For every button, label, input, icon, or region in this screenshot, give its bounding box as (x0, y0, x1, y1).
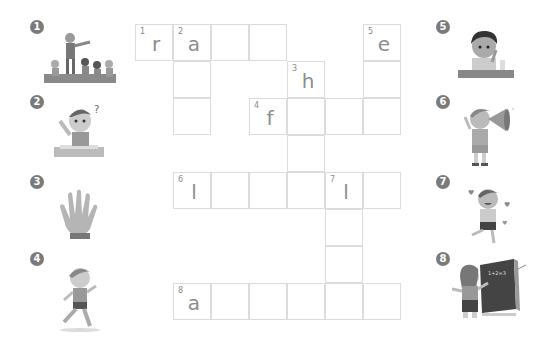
crossword-cell[interactable] (325, 209, 363, 246)
crossword-cell[interactable] (249, 283, 287, 320)
svg-text:1+2=3: 1+2=3 (488, 270, 506, 276)
svg-text:': ' (512, 107, 514, 115)
clue-number-badge: 8 (436, 252, 450, 266)
crossword-cell[interactable] (363, 283, 401, 320)
girl-at-blackboard-icon: 1+2=3 (450, 255, 530, 325)
clue-1: 1 (28, 18, 118, 93)
crossword-cell[interactable] (325, 98, 363, 135)
clue-5: 5 (434, 18, 524, 93)
crossword-cell[interactable]: 8a (173, 283, 211, 320)
crossword-cell[interactable] (363, 61, 401, 98)
crossword-cell[interactable]: 6l (173, 172, 211, 209)
clue-7: 7 ♥ ♥ ♥ (434, 173, 524, 248)
clue-2: 2 ? (28, 93, 118, 168)
crossword-cell[interactable]: 2a (173, 24, 211, 61)
crossword-cell[interactable] (173, 61, 211, 98)
clue-number-badge: 7 (436, 175, 450, 189)
crossword-cell[interactable]: 1r (135, 24, 173, 61)
clue-number-badge: 6 (436, 95, 450, 109)
crossword-cell[interactable] (249, 24, 287, 61)
crossword-cell[interactable] (287, 98, 325, 135)
cell-letter: l (174, 180, 210, 204)
crossword-cell[interactable] (287, 172, 325, 209)
clue-number-badge: 5 (436, 20, 450, 34)
clue-6: 6 ' (434, 93, 524, 168)
svg-text:♥: ♥ (468, 189, 474, 197)
crossword-cell[interactable] (325, 283, 363, 320)
crossword-cell[interactable] (287, 283, 325, 320)
clue-3: 3 (28, 173, 118, 248)
clue-4: 4 (28, 250, 118, 325)
boy-raising-hand-icon: ? (48, 101, 113, 166)
boy-eating-icon (456, 26, 516, 84)
crossword-cell[interactable] (249, 172, 287, 209)
cell-letter: f (250, 106, 286, 130)
cell-letter: l (326, 180, 362, 204)
clue-number-badge: 4 (30, 252, 44, 266)
crossword-cell[interactable]: 5e (363, 24, 401, 61)
clue-number-badge: 3 (30, 175, 44, 189)
svg-text:?: ? (94, 104, 99, 115)
cell-letter: h (288, 69, 324, 93)
clue-8: 8 1+2=3 (434, 250, 524, 325)
svg-text:♥: ♥ (502, 219, 507, 226)
cell-letter: r (136, 32, 172, 56)
hand-icon (58, 187, 100, 245)
cell-letter: a (174, 32, 210, 56)
crossword-cell[interactable]: 3h (287, 61, 325, 98)
teacher-running-kids-icon (40, 30, 118, 90)
crossword-cell[interactable] (363, 98, 401, 135)
svg-text:♥: ♥ (504, 201, 510, 209)
clue-number-badge: 2 (30, 95, 44, 109)
crossword-cell[interactable] (211, 283, 249, 320)
girl-running-icon (54, 260, 104, 335)
crossword-cell[interactable] (211, 172, 249, 209)
cell-letter: a (174, 291, 210, 315)
boy-megaphone-icon: ' (462, 101, 522, 171)
boy-laughing-icon: ♥ ♥ ♥ (464, 183, 514, 248)
crossword-cell[interactable] (173, 98, 211, 135)
cell-letter: e (364, 32, 400, 56)
crossword-cell[interactable] (363, 172, 401, 209)
crossword-cell[interactable]: 7l (325, 172, 363, 209)
crossword-cell[interactable] (325, 246, 363, 283)
crossword-cell[interactable]: 4f (249, 98, 287, 135)
crossword-cell[interactable] (287, 135, 325, 172)
crossword-cell[interactable] (211, 24, 249, 61)
